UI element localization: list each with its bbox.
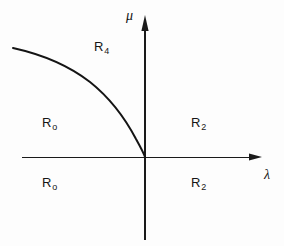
region-label-r0-upper-subscript: o xyxy=(52,122,57,132)
region-label-r4: R4 xyxy=(94,40,109,56)
region-label-r2-upper-subscript: 2 xyxy=(201,122,206,132)
region-label-r2-lower: R2 xyxy=(191,176,206,192)
y-axis-arrowhead xyxy=(141,15,148,31)
region-label-r4-base: R xyxy=(94,39,104,54)
figure-canvas: μ λ R4 Ro Ro R2 R2 xyxy=(0,0,284,246)
x-axis-arrowhead xyxy=(249,153,262,160)
bifurcation-curve xyxy=(13,48,145,157)
region-label-r0-lower-base: R xyxy=(42,175,52,190)
region-label-r0-upper-base: R xyxy=(42,115,52,130)
y-axis-label-mu: μ xyxy=(126,9,133,23)
x-axis-label-lambda: λ xyxy=(264,168,270,182)
region-label-r0-lower-subscript: o xyxy=(52,182,57,192)
region-label-r2-upper: R2 xyxy=(191,116,206,132)
region-label-r2-lower-base: R xyxy=(191,175,201,190)
region-label-r0-lower: Ro xyxy=(42,176,57,192)
region-label-r2-upper-base: R xyxy=(191,115,201,130)
region-label-r0-upper: Ro xyxy=(42,116,57,132)
region-label-r2-lower-subscript: 2 xyxy=(201,182,206,192)
region-label-r4-subscript: 4 xyxy=(104,46,109,56)
